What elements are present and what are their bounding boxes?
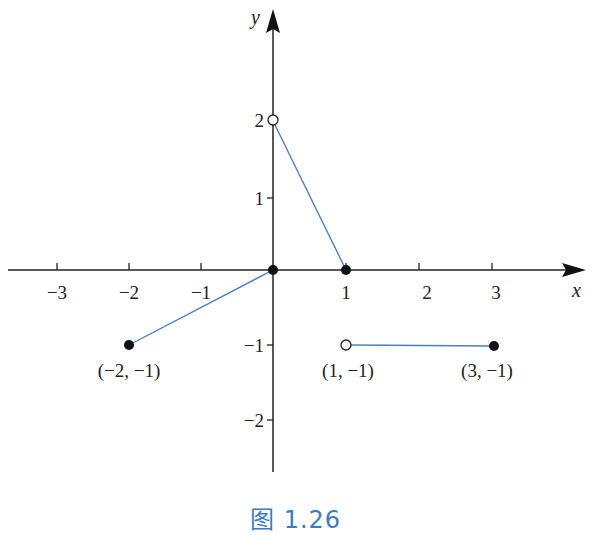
open-point bbox=[268, 115, 278, 125]
y-ticks bbox=[267, 198, 273, 420]
closed-point bbox=[489, 341, 499, 351]
x-tick-label: 2 bbox=[422, 282, 432, 303]
figure-caption: 图 1.26 bbox=[250, 500, 341, 535]
y-tick-label: 2 bbox=[255, 110, 265, 131]
y-tick-label: −2 bbox=[244, 410, 264, 431]
graph-segments bbox=[129, 125, 492, 346]
closed-point bbox=[268, 265, 278, 275]
x-tick-label: −1 bbox=[191, 282, 211, 303]
x-tick-label: −2 bbox=[119, 282, 139, 303]
open-point bbox=[341, 340, 351, 350]
x-tick-label: 1 bbox=[341, 282, 351, 303]
segment-2 bbox=[275, 125, 346, 270]
point-label: (3, −1) bbox=[461, 360, 513, 382]
closed-point bbox=[341, 265, 351, 275]
segment-3 bbox=[351, 345, 492, 346]
y-tick-label: −1 bbox=[244, 335, 264, 356]
y-tick-label: 1 bbox=[255, 188, 265, 209]
x-tick-label: 3 bbox=[491, 282, 501, 303]
point-label: (1, −1) bbox=[322, 360, 374, 382]
x-axis-label: x bbox=[571, 279, 581, 301]
point-label: (−2, −1) bbox=[98, 360, 161, 382]
x-tick-label: −3 bbox=[47, 282, 67, 303]
y-axis-label: y bbox=[249, 6, 260, 29]
closed-point bbox=[124, 340, 134, 350]
